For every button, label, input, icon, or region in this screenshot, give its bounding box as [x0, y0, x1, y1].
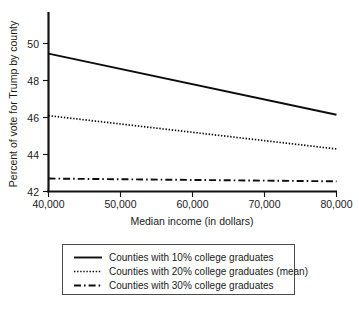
x-tick-label-80000: 80,000: [320, 198, 352, 210]
y-tick-label-42: 42: [27, 186, 39, 198]
line-chart: Percent of vote for Trump by county 50 4…: [0, 0, 359, 311]
x-tick-label-40000: 40,000: [32, 198, 64, 210]
legend-label-10pct: Counties with 10% college graduates: [109, 252, 274, 263]
y-tick-label-48: 48: [27, 75, 39, 87]
y-axis-title: Percent of vote for Trump by county: [7, 20, 19, 187]
legend-item-20pct[interactable]: Counties with 20% college graduates (mea…: [74, 266, 308, 277]
x-axis-title: Median income (in dollars): [130, 215, 253, 227]
chart-background: [0, 0, 359, 311]
y-tick-label-46: 46: [27, 112, 39, 124]
y-tick-label-50: 50: [27, 38, 39, 50]
y-tick-label-44: 44: [27, 149, 39, 161]
x-tick-label-50000: 50,000: [104, 198, 136, 210]
legend-label-20pct: Counties with 20% college graduates (mea…: [109, 266, 308, 277]
legend-label-30pct: Counties with 30% college graduates: [109, 280, 274, 291]
chart-figure: Percent of vote for Trump by county 50 4…: [0, 0, 359, 311]
x-tick-label-60000: 60,000: [176, 198, 208, 210]
x-tick-label-70000: 70,000: [248, 198, 280, 210]
